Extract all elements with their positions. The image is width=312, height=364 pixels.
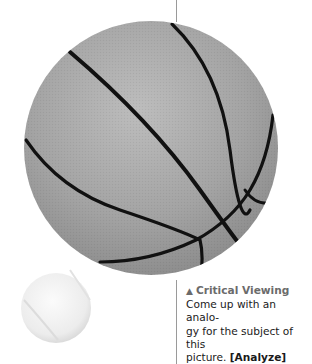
basketball-icon <box>24 21 278 290</box>
triangle-icon: ▲ <box>186 286 193 296</box>
caption-line-1: Come up with an analo- <box>186 298 310 324</box>
tennis-ball-icon <box>21 270 91 343</box>
critical-viewing-caption: ▲Critical Viewing Come up with an analo-… <box>186 284 310 364</box>
caption-heading: ▲Critical Viewing <box>186 284 310 298</box>
caption-line-3-text: picture. <box>186 351 230 363</box>
caption-heading-text: Critical Viewing <box>196 284 289 296</box>
caption-line-3: picture. [Analyze] <box>186 351 310 364</box>
analyze-tag: [Analyze] <box>230 351 286 363</box>
caption-line-2: gy for the subject of this <box>186 325 310 351</box>
